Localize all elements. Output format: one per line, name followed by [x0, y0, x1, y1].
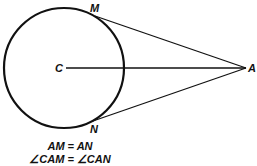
- label-c: C: [55, 63, 63, 74]
- equation-2: ∠CAM = ∠CAN: [15, 153, 125, 166]
- label-a: A: [248, 63, 256, 74]
- label-n: N: [90, 124, 98, 135]
- tangent-an: [93, 68, 246, 121]
- label-m: M: [90, 3, 99, 14]
- equation-1: AM = AN: [15, 140, 125, 153]
